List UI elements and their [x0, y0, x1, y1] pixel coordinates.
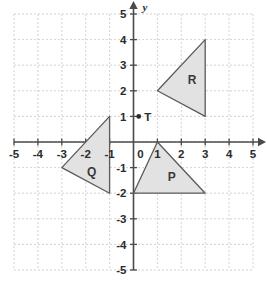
y-tick-label: 2: [120, 85, 126, 97]
y-tick-label: -3: [116, 213, 126, 225]
y-tick-label: 1: [120, 111, 127, 123]
y-tick-label: 4: [120, 34, 127, 46]
x-tick-label: 3: [202, 148, 208, 160]
x-tick-label: -4: [33, 148, 44, 160]
point-label-t: T: [144, 111, 151, 123]
y-tick-label: 5: [120, 8, 127, 20]
x-tick-label: 4: [226, 148, 233, 160]
x-tick-label: 0: [137, 148, 143, 160]
y-tick-label: -4: [116, 239, 127, 251]
y-tick-label: 3: [120, 59, 126, 71]
x-axis-arrowhead: [258, 138, 266, 146]
y-tick-label: -1: [116, 162, 127, 174]
x-tick-label: 5: [250, 148, 257, 160]
x-tick-label: -1: [104, 148, 115, 160]
shape-label-r: R: [188, 73, 197, 87]
y-tick-label: -5: [116, 264, 127, 276]
points-layer: [136, 114, 141, 119]
axes: [14, 1, 266, 270]
y-tick-label: -2: [116, 187, 126, 199]
x-tick-label: -3: [57, 148, 67, 160]
coordinate-plane-figure: -5-4-3-2-101234554321-1-2-3-4-5 PQRT yx: [0, 0, 267, 285]
x-tick-label: 1: [154, 148, 161, 160]
graph-svg: -5-4-3-2-101234554321-1-2-3-4-5 PQRT yx: [0, 0, 267, 285]
point-t: [136, 114, 141, 119]
x-tick-label: -2: [81, 148, 91, 160]
y-axis-label: y: [141, 1, 148, 13]
y-axis-arrowhead: [129, 1, 137, 9]
shape-label-p: P: [168, 170, 176, 184]
shape-label-q: Q: [87, 165, 96, 179]
x-tick-label: 2: [178, 148, 184, 160]
x-tick-label: -5: [9, 148, 20, 160]
